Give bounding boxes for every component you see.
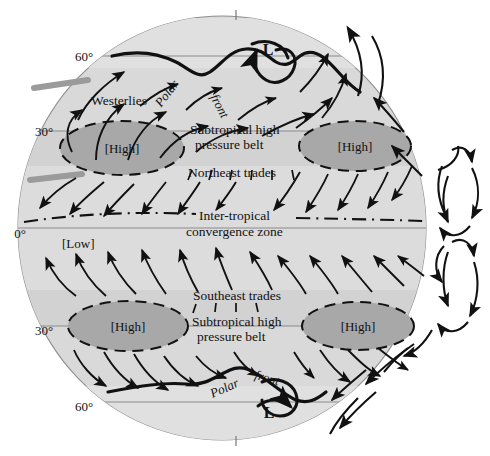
label-northeast-trades: Northeast trades xyxy=(188,165,276,180)
label-itcz-1: Inter-tropical xyxy=(199,208,270,223)
label-sth-north-1: Subtropical high xyxy=(190,122,280,137)
label-lat-equator: 0° xyxy=(14,226,26,241)
label-sth-south-1: Subtropical high xyxy=(192,314,282,329)
label-itcz-2: convergence zone xyxy=(186,224,283,239)
label-southeast-trades: Southeast trades xyxy=(193,288,281,303)
diagram-canvas: 60° 30° 0° 30° 60° [High] [High] [High] … xyxy=(0,0,490,456)
label-lat-60s: 60° xyxy=(75,399,93,414)
label-sth-south-2: pressure belt xyxy=(197,329,266,344)
label-L-north: L xyxy=(263,41,274,58)
label-L-south: L xyxy=(264,404,275,421)
label-high-north-left: [High] xyxy=(105,141,140,156)
label-lat-30n: 30° xyxy=(35,124,53,139)
label-high-south-right: [High] xyxy=(341,319,376,334)
label-westerlies: Westerlies xyxy=(91,93,147,108)
label-high-south-left: [High] xyxy=(111,319,146,334)
global-circulation-diagram: 60° 30° 0° 30° 60° [High] [High] [High] … xyxy=(0,0,490,456)
label-high-north-right: [High] xyxy=(338,139,373,154)
label-low-equatorial: [Low] xyxy=(62,236,95,251)
label-lat-60n: 60° xyxy=(75,49,93,64)
label-sth-north-2: pressure belt xyxy=(195,137,264,152)
label-lat-30s: 30° xyxy=(35,323,53,338)
